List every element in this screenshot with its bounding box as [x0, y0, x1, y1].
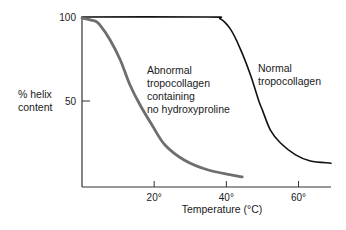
annotation-abnormal-line-4: no hydroxyproline	[147, 103, 230, 115]
x-tick-label: 20°	[147, 192, 162, 203]
annotation-abnormal-line-3: containing	[147, 90, 195, 102]
annotation-abnormal-tropocollagen: Abnormal tropocollagen containing no hyd…	[147, 64, 230, 115]
annotation-abnormal-line-1: Abnormal	[147, 64, 192, 76]
y-ticks: 10050	[59, 12, 90, 107]
annotation-normal-tropocollagen: Normal tropocollagen	[258, 62, 321, 87]
helix-content-chart: 20°40°60° 10050 % helix content Temperat…	[0, 0, 346, 230]
x-tick-label: 60°	[291, 192, 306, 203]
x-ticks: 20°40°60°	[147, 181, 306, 203]
y-axis-label: % helix content	[18, 88, 55, 113]
annotation-normal-line-1: Normal	[258, 62, 292, 74]
x-tick-label: 40°	[219, 192, 234, 203]
y-tick-label: 50	[65, 96, 77, 107]
annotation-normal-line-2: tropocollagen	[258, 75, 321, 87]
y-axis-label-line-2: content	[18, 101, 53, 113]
series-line-normal-tropocollagen	[82, 17, 331, 163]
y-axis-label-line-1: % helix	[18, 88, 53, 100]
x-axis-label: Temperature (°C)	[182, 203, 263, 215]
y-tick-label: 100	[59, 12, 76, 23]
annotation-abnormal-line-2: tropocollagen	[147, 77, 210, 89]
